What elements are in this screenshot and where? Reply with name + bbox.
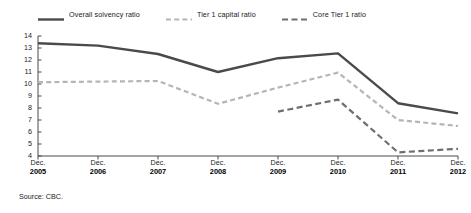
series-line xyxy=(278,100,458,153)
x-tick-label-group: Dec.2008 xyxy=(188,158,248,177)
x-tick-month: Dec. xyxy=(428,158,471,167)
legend-entry[interactable]: Core Tier 1 ratio xyxy=(282,10,366,19)
x-tick-year: 2012 xyxy=(428,167,471,177)
chart-figure: Overall solvency ratioTier 1 capital rat… xyxy=(0,0,471,213)
x-tick-label-group: Dec.2012 xyxy=(428,158,471,177)
legend-entry[interactable]: Tier 1 capital ratio xyxy=(166,10,256,19)
plot-svg xyxy=(38,36,458,156)
x-tick-year: 2007 xyxy=(128,167,188,177)
x-tick-month: Dec. xyxy=(128,158,188,167)
y-tick-label: 14 xyxy=(2,32,32,40)
x-axis: Dec.2005Dec.2006Dec.2007Dec.2008Dec.2009… xyxy=(38,158,458,184)
legend-swatch-icon xyxy=(282,10,308,19)
y-tick-label: 6 xyxy=(2,128,32,136)
x-tick-label-group: Dec.2005 xyxy=(8,158,68,177)
legend-label: Overall solvency ratio xyxy=(69,10,140,19)
y-tick-label: 10 xyxy=(2,80,32,88)
x-tick-label-group: Dec.2009 xyxy=(248,158,308,177)
legend-swatch-icon xyxy=(166,10,192,19)
chart-legend: Overall solvency ratioTier 1 capital rat… xyxy=(0,6,471,22)
y-tick-label: 8 xyxy=(2,104,32,112)
y-tick-label: 11 xyxy=(2,68,32,76)
x-tick-month: Dec. xyxy=(368,158,428,167)
x-tick-month: Dec. xyxy=(68,158,128,167)
source-note: Source: CBC. xyxy=(19,192,63,201)
x-tick-month: Dec. xyxy=(308,158,368,167)
x-tick-month: Dec. xyxy=(248,158,308,167)
x-tick-year: 2009 xyxy=(248,167,308,177)
x-tick-year: 2005 xyxy=(8,167,68,177)
legend-label: Core Tier 1 ratio xyxy=(313,10,366,19)
x-tick-month: Dec. xyxy=(188,158,248,167)
legend-entry[interactable]: Overall solvency ratio xyxy=(38,10,140,19)
y-tick-label: 12 xyxy=(2,56,32,64)
y-tick-label: 9 xyxy=(2,92,32,100)
x-tick-label-group: Dec.2011 xyxy=(368,158,428,177)
y-tick-label: 5 xyxy=(2,140,32,148)
x-tick-year: 2011 xyxy=(368,167,428,177)
series-line xyxy=(38,43,458,113)
plot-area xyxy=(38,36,458,156)
x-tick-year: 2010 xyxy=(308,167,368,177)
legend-label: Tier 1 capital ratio xyxy=(197,10,256,19)
y-tick-label: 7 xyxy=(2,116,32,124)
x-tick-year: 2006 xyxy=(68,167,128,177)
legend-swatch-icon xyxy=(38,10,64,19)
x-tick-label-group: Dec.2010 xyxy=(308,158,368,177)
x-tick-month: Dec. xyxy=(8,158,68,167)
y-tick-label: 13 xyxy=(2,44,32,52)
y-axis: 1413121110987654 xyxy=(0,30,32,162)
x-tick-year: 2008 xyxy=(188,167,248,177)
x-tick-label-group: Dec.2007 xyxy=(128,158,188,177)
x-tick-label-group: Dec.2006 xyxy=(68,158,128,177)
